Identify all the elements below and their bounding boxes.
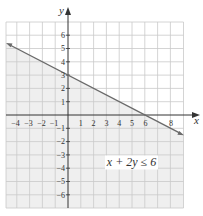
y-tick-label: 2	[61, 84, 65, 93]
x-tick-label: −2	[37, 119, 46, 128]
y-axis-label: y	[58, 4, 64, 16]
y-tick-label: 6	[61, 31, 65, 40]
x-tick-label: 1	[79, 119, 83, 128]
x-tick-label: −4	[11, 119, 20, 128]
y-tick-label: 5	[61, 44, 65, 53]
y-axis-arrow-icon	[65, 7, 71, 15]
x-tick-label: 4	[117, 119, 121, 128]
y-tick-label: 1	[61, 98, 65, 107]
y-tick-label: −3	[56, 151, 65, 160]
x-axis-label: x	[193, 114, 199, 126]
y-tick-label: 3	[61, 71, 65, 80]
x-tick-label: 8	[169, 119, 173, 128]
y-tick-label: −1	[56, 124, 65, 133]
y-tick-label: −2	[56, 137, 65, 146]
inequality-label: x + 2y ≤ 6	[106, 155, 156, 169]
x-tick-label: 6	[144, 119, 148, 128]
x-tick-label: 2	[92, 119, 96, 128]
x-tick-label: −3	[24, 119, 33, 128]
y-tick-label: −4	[56, 164, 65, 173]
x-tick-label: 5	[130, 119, 134, 128]
inequality-graph: −4 −3 −2 −1 1 2 3 4 5 6 8 6 5 4 3 2 1 −1…	[0, 0, 203, 216]
inequality-text: x + 2y ≤ 6	[106, 155, 156, 169]
y-tick-label: −6	[56, 191, 65, 200]
y-tick-label: −5	[56, 177, 65, 186]
y-tick-label: 4	[61, 58, 65, 67]
x-tick-label: 3	[104, 119, 108, 128]
